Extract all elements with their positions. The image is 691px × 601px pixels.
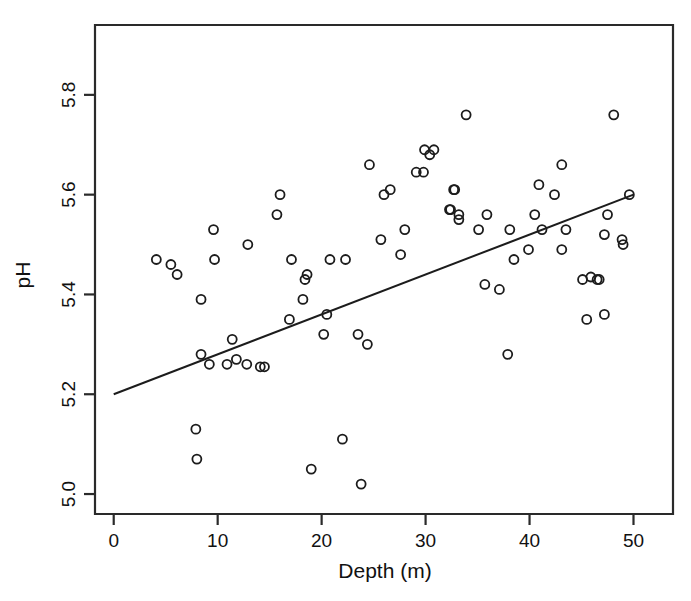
y-axis-tick-labels: 5.05.25.45.65.8: [59, 82, 80, 508]
regression-line-group: [114, 195, 634, 395]
data-point: [272, 210, 281, 219]
x-tick-label: 50: [623, 530, 644, 551]
data-point: [380, 190, 389, 199]
data-point: [495, 285, 504, 294]
data-point: [363, 340, 372, 349]
frame-box: [95, 25, 673, 514]
data-point: [205, 360, 214, 369]
x-tick-label: 20: [311, 530, 332, 551]
data-point: [400, 225, 409, 234]
x-tick-label: 30: [415, 530, 436, 551]
data-point: [557, 245, 566, 254]
data-point: [386, 185, 395, 194]
data-point: [474, 225, 483, 234]
data-point: [582, 315, 591, 324]
data-point: [232, 355, 241, 364]
data-point: [534, 180, 543, 189]
data-points: [152, 110, 634, 488]
data-point: [223, 360, 232, 369]
data-point: [243, 240, 252, 249]
data-point: [509, 255, 518, 264]
y-tick-label: 5.0: [59, 481, 80, 507]
data-point: [503, 350, 512, 359]
y-tick-label: 5.6: [59, 181, 80, 207]
data-point: [365, 160, 374, 169]
data-point: [462, 110, 471, 119]
data-point: [524, 245, 533, 254]
data-point: [550, 190, 559, 199]
y-axis-title: pH: [11, 262, 34, 289]
data-point: [482, 210, 491, 219]
data-point: [152, 255, 161, 264]
data-point: [357, 480, 366, 489]
data-point: [396, 250, 405, 259]
data-point: [173, 270, 182, 279]
data-point: [197, 295, 206, 304]
y-tick-label: 5.4: [59, 281, 80, 308]
data-point: [166, 260, 175, 269]
data-point: [600, 230, 609, 239]
data-point: [285, 315, 294, 324]
x-axis-tick-labels: 01020304050: [108, 530, 644, 551]
data-point: [341, 255, 350, 264]
plot-canvas: 01020304050 5.05.25.45.65.8 Depth (m) pH: [0, 0, 691, 601]
data-point: [530, 210, 539, 219]
data-point: [197, 350, 206, 359]
data-point: [319, 330, 328, 339]
data-point: [480, 280, 489, 289]
x-tick-label: 0: [108, 530, 119, 551]
data-point: [609, 110, 618, 119]
y-tick-label: 5.8: [59, 82, 80, 108]
data-point: [354, 330, 363, 339]
data-point: [209, 225, 218, 234]
data-point: [603, 210, 612, 219]
data-point: [191, 425, 200, 434]
data-point: [210, 255, 219, 264]
x-axis-title: Depth (m): [338, 559, 431, 582]
y-axis-ticks: [84, 95, 95, 494]
data-point: [307, 465, 316, 474]
x-tick-label: 10: [207, 530, 228, 551]
data-point: [287, 255, 296, 264]
data-point: [192, 455, 201, 464]
scatter-plot-figure: 01020304050 5.05.25.45.65.8 Depth (m) pH: [0, 0, 691, 601]
plot-frame: [95, 25, 673, 514]
y-tick-label: 5.2: [59, 381, 80, 407]
x-axis-ticks: [114, 514, 634, 525]
data-point: [325, 255, 334, 264]
data-point: [505, 225, 514, 234]
data-point: [557, 160, 566, 169]
x-tick-label: 40: [519, 530, 540, 551]
data-point: [276, 190, 285, 199]
data-point: [298, 295, 307, 304]
data-point: [338, 435, 347, 444]
data-point: [561, 225, 570, 234]
data-point: [376, 235, 385, 244]
data-point: [242, 360, 251, 369]
data-point: [228, 335, 237, 344]
regression-line: [114, 195, 634, 395]
data-point: [600, 310, 609, 319]
